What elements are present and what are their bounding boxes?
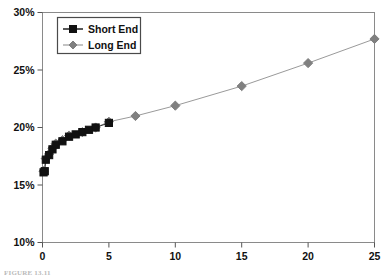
y-tick-label: 20% xyxy=(13,121,35,133)
data-point-short-end xyxy=(79,129,86,136)
x-axis: 0510152025 xyxy=(40,243,381,262)
data-point-short-end xyxy=(52,141,59,148)
data-point-short-end xyxy=(41,168,48,175)
x-tick-label: 25 xyxy=(369,250,381,262)
data-point-short-end xyxy=(65,133,72,140)
x-tick-label: 0 xyxy=(40,250,46,262)
x-tick-label: 5 xyxy=(106,250,112,262)
legend-label-short-end: Short End xyxy=(88,23,138,35)
y-tick-label: 15% xyxy=(13,179,35,191)
y-tick-label: 10% xyxy=(13,236,35,248)
data-point-short-end xyxy=(105,119,112,126)
y-tick-label: 30% xyxy=(13,6,35,18)
legend-marker-short-end xyxy=(70,26,77,33)
legend-label-long-end: Long End xyxy=(88,39,136,51)
yield-curve-chart: 30%25%20%15%10% 0510152025 Short End Lon… xyxy=(0,0,391,277)
figure-caption: FIGURE 13.11 xyxy=(4,270,389,277)
data-point-short-end xyxy=(92,124,99,131)
figure-container: 30%25%20%15%10% 0510152025 Short End Lon… xyxy=(0,0,391,277)
data-point-short-end xyxy=(72,131,79,138)
x-tick-label: 10 xyxy=(169,250,181,262)
data-point-short-end xyxy=(85,126,92,133)
y-axis: 30%25%20%15%10% xyxy=(13,6,42,248)
x-tick-label: 15 xyxy=(236,250,248,262)
chart-legend: Short End Long End xyxy=(58,18,141,54)
x-tick-label: 20 xyxy=(302,250,314,262)
data-point-short-end xyxy=(59,138,66,145)
y-tick-label: 25% xyxy=(13,64,35,76)
